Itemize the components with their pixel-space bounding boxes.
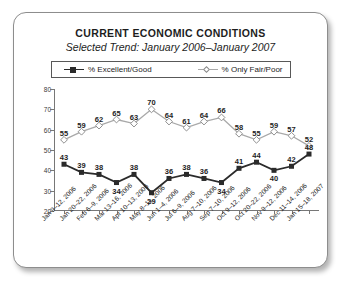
data-point-label: 38 <box>130 163 138 172</box>
data-point-label: 63 <box>130 113 138 122</box>
data-point-label: 48 <box>305 143 313 152</box>
open-diamond-marker-icon <box>198 69 218 70</box>
data-point-label: 61 <box>182 117 190 126</box>
data-point-label: 59 <box>77 121 85 130</box>
legend-label-excellent-good: % Excellent/Good <box>88 65 152 74</box>
data-point-label: 36 <box>165 167 173 176</box>
data-point-label: 55 <box>252 129 260 138</box>
data-point-label: 58 <box>235 123 243 132</box>
filled-square-marker-icon <box>64 69 84 70</box>
data-point-label: 70 <box>147 98 155 107</box>
legend-label-fair-poor: % Only Fair/Poor <box>222 65 283 74</box>
chart-card: CURRENT ECONOMIC CONDITIONS Selected Tre… <box>13 12 328 268</box>
chart-legend: % Excellent/Good % Only Fair/Poor <box>51 61 291 78</box>
data-point-label: 65 <box>112 109 120 118</box>
y-axis-tick <box>50 170 54 171</box>
data-point-label: 40 <box>270 174 278 183</box>
data-point-label: 39 <box>77 161 85 170</box>
data-point-label: 38 <box>95 163 103 172</box>
data-point-label: 62 <box>95 115 103 124</box>
data-point-label: 64 <box>165 111 173 120</box>
data-point-label: 41 <box>235 157 243 166</box>
y-axis-tick <box>50 191 54 192</box>
data-point-label: 38 <box>182 163 190 172</box>
y-axis-tick <box>50 130 54 131</box>
page-subtitle: Selected Trend: January 2006–January 200… <box>14 41 327 53</box>
data-point-label: 42 <box>287 155 295 164</box>
data-point-label: 57 <box>287 125 295 134</box>
data-point-label: 55 <box>60 129 68 138</box>
data-point-label: 66 <box>217 106 225 115</box>
data-point-label: 36 <box>200 167 208 176</box>
x-axis-labels: Jan 9–12, 2006Jan 20–22, 2006Feb 6–9, 20… <box>34 213 319 286</box>
legend-item-fair-poor: % Only Fair/Poor <box>198 65 283 74</box>
legend-item-excellent-good: % Excellent/Good <box>64 65 152 74</box>
data-point-label: 59 <box>270 121 278 130</box>
data-point-label: 43 <box>60 153 68 162</box>
y-axis-tick <box>50 109 54 110</box>
data-point-label: 44 <box>252 151 260 160</box>
y-axis-tick <box>50 150 54 151</box>
y-axis-tick <box>50 89 54 90</box>
page-title: CURRENT ECONOMIC CONDITIONS <box>14 27 327 39</box>
data-point-label: 64 <box>200 111 208 120</box>
